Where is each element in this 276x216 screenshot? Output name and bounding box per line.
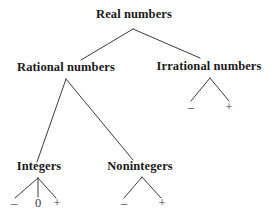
leaf-nonintegers-plus: + <box>158 196 165 211</box>
tree-connector-lines <box>0 0 276 216</box>
node-irrational-numbers: Irrational numbers <box>157 59 262 74</box>
node-nonintegers: Nonintegers <box>107 159 173 174</box>
node-real-numbers: Real numbers <box>96 7 172 22</box>
leaf-integers-zero: 0 <box>35 196 41 211</box>
edge-irrational-to-minus <box>191 78 210 101</box>
edge-root-to-rational <box>81 29 133 60</box>
leaf-integers-plus: + <box>53 196 60 211</box>
edge-irrational-to-plus <box>210 78 229 101</box>
node-rational-numbers: Rational numbers <box>17 60 115 75</box>
node-integers: Integers <box>17 159 62 174</box>
leaf-integers-minus: – <box>11 196 17 211</box>
edge-rational-to-integers <box>37 79 66 162</box>
edge-rational-to-nonintegers <box>66 79 133 160</box>
leaf-nonintegers-minus: – <box>121 196 127 211</box>
leaf-irrational-plus: + <box>225 100 232 115</box>
edge-root-to-irrational <box>133 29 200 58</box>
number-classification-diagram: Real numbers Rational numbers Irrational… <box>0 0 276 216</box>
leaf-irrational-minus: – <box>188 100 194 115</box>
